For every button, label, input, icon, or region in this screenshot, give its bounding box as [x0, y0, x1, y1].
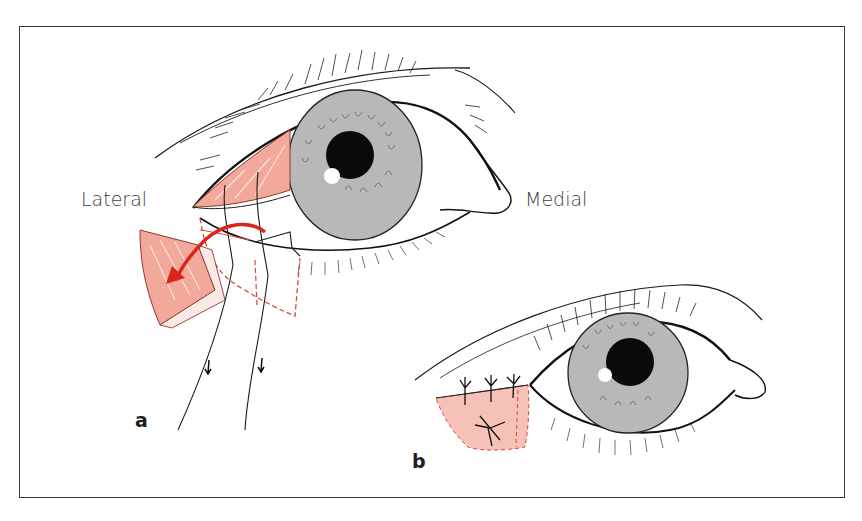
- panel-a-eye: [140, 50, 515, 430]
- panel-b-eye: [415, 285, 765, 455]
- pupil-b: [606, 338, 654, 386]
- eye-surgery-illustration: [0, 0, 862, 521]
- panel-a-label: a: [135, 409, 148, 431]
- medial-label: Medial: [525, 188, 587, 210]
- lateral-label: Lateral: [81, 188, 147, 210]
- panel-b-label: b: [412, 450, 426, 472]
